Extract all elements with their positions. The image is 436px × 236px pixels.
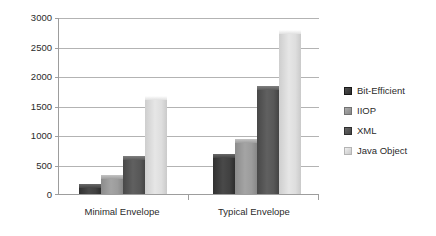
legend-label-java-object: Java Object bbox=[357, 145, 407, 156]
bar-minimal-iiop[interactable] bbox=[101, 175, 123, 194]
x-tick-mark-end bbox=[318, 195, 319, 200]
bar-chart: 0 500 1000 1500 2000 2500 3000 bbox=[0, 0, 436, 236]
legend-swatch-java-object bbox=[344, 147, 352, 155]
bar-top-highlight bbox=[235, 139, 257, 143]
bar-typical-java-object[interactable] bbox=[279, 30, 301, 194]
y-tick-mark-1000 bbox=[55, 136, 59, 137]
y-tick-label-1500: 1500 bbox=[4, 102, 52, 112]
bar-minimal-java-object[interactable] bbox=[145, 96, 167, 194]
bar-top-highlight bbox=[101, 175, 123, 179]
y-tick-mark-500 bbox=[55, 166, 59, 167]
bar-group-minimal-envelope bbox=[65, 18, 180, 194]
bar-top-highlight bbox=[257, 86, 279, 90]
bar-top-highlight bbox=[279, 30, 301, 34]
y-tick-mark-1500 bbox=[55, 107, 59, 108]
bar-typical-iiop[interactable] bbox=[235, 139, 257, 194]
bar-minimal-bit-efficient[interactable] bbox=[79, 184, 101, 194]
legend-item-java-object[interactable]: Java Object bbox=[344, 142, 436, 159]
plot-area bbox=[58, 18, 319, 195]
legend: Bit-Efficient IIOP XML Java Object bbox=[344, 82, 436, 162]
x-tick-mark-divider bbox=[188, 195, 189, 200]
y-tick-label-2500: 2500 bbox=[4, 43, 52, 53]
y-tick-mark-2000 bbox=[55, 77, 59, 78]
y-tick-mark-3000 bbox=[55, 18, 59, 19]
x-category-label-typical-envelope: Typical Envelope bbox=[196, 206, 312, 217]
y-tick-mark-0 bbox=[55, 194, 59, 195]
y-tick-label-1000: 1000 bbox=[4, 131, 52, 141]
y-tick-label-500: 500 bbox=[4, 161, 52, 171]
y-tick-label-3000: 3000 bbox=[4, 13, 52, 23]
bar-top-highlight bbox=[213, 154, 235, 158]
legend-item-xml[interactable]: XML bbox=[344, 122, 436, 139]
legend-label-xml: XML bbox=[357, 125, 377, 136]
legend-label-bit-efficient: Bit-Efficient bbox=[357, 85, 405, 96]
bar-typical-bit-efficient[interactable] bbox=[213, 154, 235, 194]
legend-item-bit-efficient[interactable]: Bit-Efficient bbox=[344, 82, 436, 99]
bar-top-highlight bbox=[123, 156, 145, 160]
y-tick-mark-2500 bbox=[55, 48, 59, 49]
bar-top-highlight bbox=[145, 96, 167, 100]
x-category-label-minimal-envelope: Minimal Envelope bbox=[64, 206, 180, 217]
y-tick-label-0: 0 bbox=[4, 190, 52, 200]
legend-swatch-iiop bbox=[344, 107, 352, 115]
bar-typical-xml[interactable] bbox=[257, 86, 279, 194]
legend-item-iiop[interactable]: IIOP bbox=[344, 102, 436, 119]
bar-top-highlight bbox=[79, 184, 101, 188]
bar-minimal-xml[interactable] bbox=[123, 156, 145, 194]
bar-group-typical-envelope bbox=[199, 18, 314, 194]
legend-label-iiop: IIOP bbox=[357, 105, 376, 116]
y-tick-label-2000: 2000 bbox=[4, 72, 52, 82]
legend-swatch-xml bbox=[344, 127, 352, 135]
y-axis: 0 500 1000 1500 2000 2500 3000 bbox=[0, 18, 52, 195]
legend-swatch-bit-efficient bbox=[344, 87, 352, 95]
